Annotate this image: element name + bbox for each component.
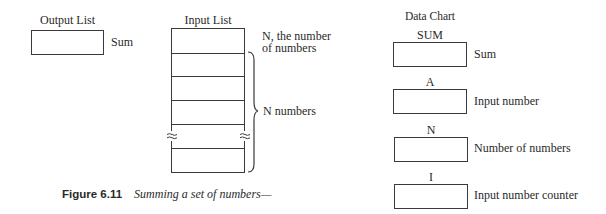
curly-brace-icon	[246, 50, 260, 174]
data-chart-title: Data Chart	[393, 9, 467, 23]
variable-description-n: Number of numbers	[474, 141, 571, 155]
break-mark-left-icon	[166, 131, 178, 141]
variable-name-n: N	[394, 123, 468, 137]
variable-name-sum: SUM	[393, 28, 467, 42]
figure-number: Figure 6.11	[62, 188, 122, 200]
variable-box-i	[394, 184, 468, 209]
variable-name-a: A	[393, 75, 467, 89]
variable-box-n	[394, 137, 468, 162]
input-list-first-cell-label-line2: of numbers	[262, 41, 316, 55]
variable-description-i: Input number counter	[474, 188, 578, 202]
input-list-row-divider	[172, 148, 244, 149]
input-list-row-divider	[172, 76, 244, 77]
figure-caption-text: Summing a set of numbers—	[134, 187, 271, 201]
variable-name-i: I	[394, 170, 468, 184]
input-list-row-divider	[172, 124, 244, 125]
variable-description-sum: Sum	[474, 47, 496, 61]
input-list-row-divider	[172, 53, 244, 54]
variable-box-sum	[393, 42, 467, 67]
figure-caption: Figure 6.11Summing a set of numbers—	[62, 187, 271, 201]
input-list-row-divider	[172, 100, 244, 101]
input-list-title: Input List	[171, 13, 245, 27]
output-list-cell-sum	[31, 30, 104, 55]
variable-description-a: Input number	[474, 94, 539, 108]
output-list-cell-label: Sum	[111, 35, 133, 49]
input-list-cells	[171, 28, 245, 173]
brace-label: N numbers	[263, 104, 316, 118]
output-list-title: Output List	[31, 13, 104, 27]
variable-box-a	[393, 89, 467, 114]
